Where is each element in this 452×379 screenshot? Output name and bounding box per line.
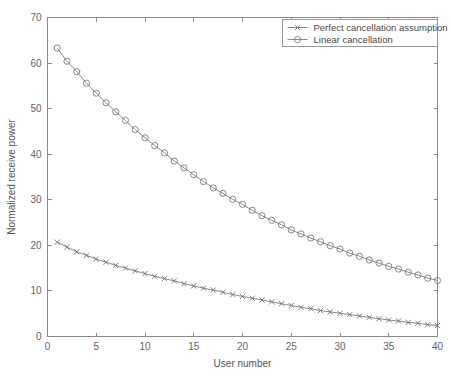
data-series-2 <box>54 45 440 284</box>
x-tick-label: 10 <box>139 341 151 352</box>
cross-marker <box>142 271 147 276</box>
x-tick-label: 25 <box>286 341 298 352</box>
x-tick-label: 15 <box>188 341 200 352</box>
legend-label: Perfect cancellation assumption <box>314 22 448 33</box>
series-line <box>57 48 437 280</box>
y-tick-label: 60 <box>30 58 42 69</box>
cross-marker <box>133 268 138 273</box>
y-tick-label: 10 <box>30 285 42 296</box>
series-line <box>57 242 437 325</box>
y-tick-label: 20 <box>30 240 42 251</box>
cross-marker <box>84 253 89 258</box>
axes-group: 0510152025303540010203040506070 <box>30 12 443 352</box>
cross-marker <box>55 240 60 245</box>
x-tick-label: 20 <box>237 341 249 352</box>
series-group <box>54 45 440 328</box>
legend-label: Linear cancellation <box>314 34 393 45</box>
axes-frame <box>48 18 438 337</box>
x-tick-label: 35 <box>383 341 395 352</box>
cross-marker <box>74 249 79 254</box>
plot-canvas: 0510152025303540010203040506070 Perfect … <box>0 0 452 379</box>
y-tick-label: 70 <box>30 12 42 23</box>
y-tick-label: 50 <box>30 103 42 114</box>
chart-legend: Perfect cancellation assumptionLinear ca… <box>283 20 448 47</box>
cross-marker <box>94 256 99 261</box>
x-tick-label: 5 <box>93 341 99 352</box>
axis-titles-group: User numberNormalized receive power <box>6 119 272 369</box>
y-axis-title: Normalized receive power <box>6 119 17 235</box>
chart-figure: 0510152025303540010203040506070 Perfect … <box>0 0 452 379</box>
cross-marker <box>103 260 108 265</box>
x-tick-label: 40 <box>432 341 444 352</box>
y-tick-label: 30 <box>30 194 42 205</box>
data-series-1 <box>55 240 440 329</box>
cross-marker <box>64 245 69 250</box>
y-tick-label: 0 <box>36 331 42 342</box>
x-axis-title: User number <box>214 358 272 369</box>
cross-marker <box>113 263 118 268</box>
x-tick-label: 30 <box>334 341 346 352</box>
cross-marker <box>123 266 128 271</box>
y-tick-label: 40 <box>30 149 42 160</box>
x-tick-label: 0 <box>45 341 51 352</box>
